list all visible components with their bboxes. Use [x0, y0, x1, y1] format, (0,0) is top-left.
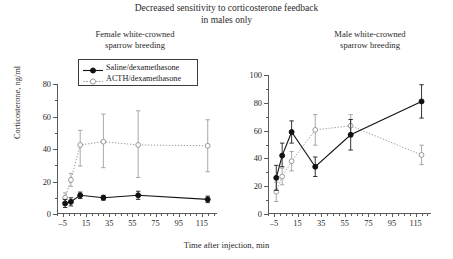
legend-item-saline: Saline/dexamethasone	[82, 62, 194, 73]
data-point	[69, 177, 74, 182]
x-tick-minor	[315, 214, 316, 216]
x-tick-minor	[103, 214, 104, 216]
x-tick-label: 95	[175, 219, 183, 228]
x-tick	[156, 214, 157, 217]
y-tick-label: 40	[43, 145, 51, 154]
x-tick-minor	[357, 214, 358, 216]
data-point	[280, 174, 285, 179]
y-tick-label: 20	[254, 182, 262, 191]
data-point	[205, 143, 210, 148]
x-tick-minor	[339, 214, 340, 216]
x-tick	[392, 214, 393, 217]
x-tick	[86, 214, 87, 217]
x-tick-label: –5	[59, 219, 67, 228]
x-tick-minor	[173, 214, 174, 216]
x-tick-minor	[57, 214, 58, 216]
data-point	[101, 139, 106, 144]
data-point	[280, 153, 285, 158]
x-tick-minor	[374, 214, 375, 216]
data-point	[78, 143, 83, 148]
x-tick-label: 115	[410, 219, 422, 228]
x-tick	[345, 214, 346, 217]
legend-label-saline: Saline/dexamethasone	[106, 63, 179, 72]
x-tick-minor	[208, 214, 209, 216]
x-tick-minor	[74, 214, 75, 216]
x-tick	[321, 214, 322, 217]
x-tick-label: 35	[317, 219, 325, 228]
error-bar	[78, 130, 82, 166]
x-tick-label: 75	[364, 219, 372, 228]
x-tick-minor	[404, 214, 405, 216]
x-tick-minor	[303, 214, 304, 216]
data-point	[419, 99, 424, 104]
x-tick-minor	[150, 214, 151, 216]
x-tick-minor	[196, 214, 197, 216]
x-tick	[274, 214, 275, 217]
x-tick-minor	[214, 214, 215, 216]
x-tick-minor	[362, 214, 363, 216]
figure-title: Decreased sensitivity to corticosterone …	[0, 3, 453, 26]
x-tick-minor	[309, 214, 310, 216]
y-tick-label: 100	[249, 71, 262, 80]
x-tick-minor	[292, 214, 293, 216]
data-point	[289, 129, 294, 134]
y-tick-label: 80	[43, 80, 51, 89]
data-point	[101, 195, 106, 200]
panel-title-left: Female white-crownedsparrow breeding	[50, 29, 220, 50]
data-point	[274, 175, 279, 180]
x-tick-minor	[398, 214, 399, 216]
x-tick-minor	[286, 214, 287, 216]
x-tick-label: 35	[105, 219, 113, 228]
x-tick-minor	[121, 214, 122, 216]
figure-title-line2: in males only	[0, 15, 453, 27]
x-tick-minor	[185, 214, 186, 216]
x-tick	[368, 214, 369, 217]
x-axis-label: Time after injection, min	[0, 240, 453, 250]
legend-marker-open-circle-icon	[82, 73, 104, 84]
x-tick-minor	[167, 214, 168, 216]
data-point	[136, 193, 141, 198]
legend: Saline/dexamethasone ACTH/dexamethasone	[78, 59, 198, 86]
figure-title-line1: Decreased sensitivity to corticosterone …	[0, 3, 453, 15]
legend-item-acth: ACTH/dexamethasone	[82, 73, 194, 84]
x-tick-minor	[280, 214, 281, 216]
data-point	[419, 153, 424, 158]
x-tick	[298, 214, 299, 217]
x-tick-minor	[422, 214, 423, 216]
x-tick	[416, 214, 417, 217]
x-tick-minor	[115, 214, 116, 216]
x-tick-label: 95	[388, 219, 396, 228]
x-tick-minor	[380, 214, 381, 216]
x-tick	[63, 214, 64, 217]
x-tick-minor	[98, 214, 99, 216]
x-tick-minor	[327, 214, 328, 216]
series-layer-left	[57, 84, 217, 214]
figure-container: Decreased sensitivity to corticosterone …	[0, 0, 453, 259]
y-tick-label: 0	[258, 210, 262, 219]
data-point	[68, 199, 73, 204]
data-point	[348, 132, 353, 137]
panel-title-right: Male white-crownedsparrow breeding	[285, 29, 453, 50]
x-tick-minor	[190, 214, 191, 216]
data-point	[63, 201, 68, 206]
plot-area-right: 020406080100 –51535557595115	[268, 75, 431, 214]
y-tick-label: 0	[47, 210, 51, 219]
x-tick-minor	[386, 214, 387, 216]
x-tick-label: 75	[151, 219, 159, 228]
x-tick-minor	[138, 214, 139, 216]
y-tick-label: 80	[254, 98, 262, 107]
y-tick-label: 60	[43, 112, 51, 121]
x-tick	[202, 214, 203, 217]
plot-area-left: 020406080 –51535557595115	[57, 84, 217, 214]
legend-marker-filled-circle-icon	[82, 62, 104, 73]
x-tick-label: –5	[270, 219, 278, 228]
data-point	[289, 159, 294, 164]
x-tick-minor	[268, 214, 269, 216]
x-tick	[132, 214, 133, 217]
data-point	[205, 197, 210, 202]
x-tick-label: 55	[128, 219, 136, 228]
x-tick-minor	[410, 214, 411, 216]
x-tick-label: 115	[196, 219, 208, 228]
series-layer-right	[268, 75, 431, 214]
y-tick-label: 40	[254, 154, 262, 163]
